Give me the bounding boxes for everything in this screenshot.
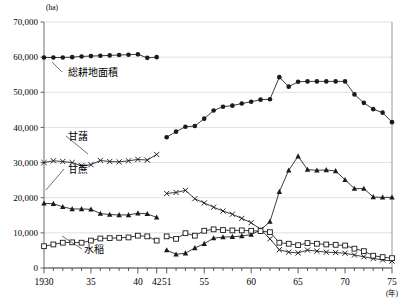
data-point <box>51 242 56 247</box>
data-point <box>183 231 188 236</box>
data-point <box>202 116 207 121</box>
data-point <box>230 228 235 233</box>
series-総耕地面積 <box>164 75 394 140</box>
series-line <box>167 77 392 137</box>
data-point <box>324 79 329 84</box>
data-point <box>230 103 235 108</box>
data-point <box>361 249 366 254</box>
xtick-label: 1930 <box>35 277 54 287</box>
data-point <box>164 234 169 239</box>
data-point <box>296 243 301 248</box>
data-point <box>239 228 244 233</box>
data-point <box>145 234 150 239</box>
data-point <box>333 242 338 247</box>
data-point <box>193 124 198 129</box>
data-point <box>249 99 254 104</box>
xtick-label: 42 <box>152 277 162 287</box>
xtick-label: 60 <box>246 277 256 287</box>
data-point <box>220 208 225 213</box>
series-annotation-label: 甘蔗 <box>68 163 88 175</box>
data-point <box>98 236 103 241</box>
data-point <box>79 54 84 59</box>
data-point <box>126 52 131 57</box>
ytick-label: 70,000 <box>13 17 38 27</box>
data-point <box>295 153 300 158</box>
ytick-label: 50,000 <box>13 87 38 97</box>
data-point <box>305 241 310 246</box>
ytick-label: 0 <box>34 263 39 273</box>
data-point <box>192 233 197 238</box>
data-point <box>211 108 216 113</box>
data-point <box>221 104 226 109</box>
data-point <box>42 244 47 249</box>
series-甘蔗 <box>41 200 159 219</box>
data-point <box>107 53 112 58</box>
series-annotation-label: 水稲 <box>84 244 104 255</box>
series-annotation-label: 総耕地面積 <box>68 66 118 78</box>
series-line <box>167 156 392 254</box>
annotation-leader <box>52 62 62 72</box>
data-point <box>277 240 282 245</box>
data-point <box>70 55 75 60</box>
ytick-label: 30,000 <box>13 158 38 168</box>
data-point <box>239 216 244 221</box>
data-point <box>315 79 320 84</box>
data-point <box>192 196 197 201</box>
data-point <box>135 210 140 215</box>
data-point <box>117 235 122 240</box>
data-point <box>371 253 376 258</box>
data-point <box>98 53 103 58</box>
data-point <box>258 97 263 102</box>
data-point <box>154 238 159 243</box>
data-point <box>230 212 235 217</box>
data-point <box>362 101 367 106</box>
series-annotation-label: 甘藷 <box>68 130 88 142</box>
data-point <box>211 227 216 232</box>
data-point <box>267 219 272 224</box>
data-point <box>154 55 159 60</box>
data-point <box>98 211 103 216</box>
annotation-leader <box>46 169 64 190</box>
data-point <box>324 242 329 247</box>
data-point <box>268 97 273 102</box>
chart-container: 010,00020,00030,00040,00050,00060,00070,… <box>0 0 400 305</box>
data-point <box>42 55 47 60</box>
y-axis-unit-label: (ha) <box>46 3 59 12</box>
data-point <box>135 233 140 238</box>
data-point <box>145 56 150 61</box>
xtick-label: 70 <box>340 277 350 287</box>
data-point <box>60 240 65 245</box>
data-point <box>249 228 254 233</box>
xtick-label: 40 <box>133 277 143 287</box>
data-point <box>343 79 348 84</box>
data-point <box>343 243 348 248</box>
data-point <box>202 228 207 233</box>
series-水稲 <box>164 227 394 261</box>
data-point <box>305 79 310 84</box>
xtick-label: 51 <box>162 277 172 287</box>
data-point <box>314 241 319 246</box>
data-point <box>249 220 254 225</box>
data-point <box>286 241 291 246</box>
data-point <box>107 236 112 241</box>
data-point <box>380 255 385 260</box>
data-point <box>268 230 273 235</box>
data-point <box>174 129 179 134</box>
data-point <box>89 54 94 59</box>
data-point <box>221 228 226 233</box>
x-axis-unit-label: (年) <box>386 288 398 298</box>
data-point <box>258 229 263 234</box>
data-point <box>192 245 197 250</box>
ytick-label: 40,000 <box>13 123 38 133</box>
data-point <box>277 189 282 194</box>
data-point <box>239 101 244 106</box>
data-point <box>126 235 131 240</box>
data-point <box>277 247 282 252</box>
series-総耕地面積 <box>42 52 159 60</box>
data-point <box>164 247 169 252</box>
ytick-label: 60,000 <box>13 52 38 62</box>
data-point <box>202 200 207 205</box>
data-point <box>202 241 207 246</box>
data-point <box>333 79 338 84</box>
ytick-label: 10,000 <box>13 228 38 238</box>
